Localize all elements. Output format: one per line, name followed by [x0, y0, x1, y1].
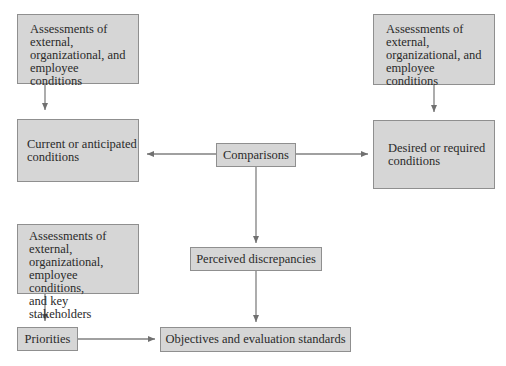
node-current-conditions: Current or anticipated conditions	[17, 119, 139, 182]
node-text-line: and key stakeholders	[29, 295, 132, 321]
node-text-line: conditions	[388, 155, 485, 168]
node-text-line: Current or anticipated	[27, 138, 137, 151]
node-assessments-desired: Assessments of external, organizational,…	[373, 14, 495, 85]
node-text-line: employee conditions	[386, 62, 488, 88]
node-text-line: employee conditions,	[29, 269, 132, 295]
node-assessments-priorities: Assessments of external, organizational,…	[17, 224, 139, 294]
node-text: Perceived discrepancies	[196, 253, 316, 266]
node-assessments-current: Assessments of external, organizational,…	[17, 14, 139, 84]
node-text: Comparisons	[223, 149, 289, 162]
node-perceived-discrepancies: Perceived discrepancies	[190, 247, 322, 271]
node-priorities: Priorities	[17, 327, 78, 351]
node-text: Priorities	[25, 333, 71, 346]
node-text-line: conditions	[27, 151, 137, 164]
node-desired-conditions: Desired or required conditions	[373, 120, 495, 189]
node-comparisons: Comparisons	[216, 143, 296, 167]
node-text: Objectives and evaluation standards	[165, 333, 345, 346]
node-objectives-evaluation-standards: Objectives and evaluation standards	[160, 327, 351, 352]
node-text-line: Desired or required	[388, 142, 485, 155]
node-text-line: employee conditions	[30, 62, 132, 88]
